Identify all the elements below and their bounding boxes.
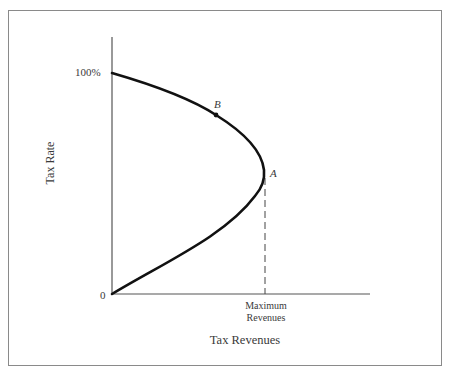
origin-tick-0: 0 <box>100 290 106 301</box>
y-tick-100: 100% <box>75 67 101 78</box>
point-b-marker <box>214 113 219 118</box>
point-a-label: A <box>270 168 277 179</box>
laffer-curve <box>112 73 264 294</box>
point-b-label: B <box>214 99 221 110</box>
max-revenues-label: Maximum Revenues <box>225 300 307 324</box>
y-axis-title: Tax Rate <box>44 131 56 195</box>
x-axis-title: Tax Revenues <box>180 334 310 347</box>
